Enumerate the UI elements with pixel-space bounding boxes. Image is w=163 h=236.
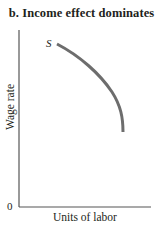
y-axis-label: Wage rate: [4, 84, 16, 130]
origin-label: 0: [7, 200, 13, 212]
curve-label-s: S: [46, 37, 52, 49]
supply-curve-s: [57, 44, 123, 132]
x-axis-label: Units of labor: [53, 211, 117, 223]
plot-area: [0, 0, 163, 236]
